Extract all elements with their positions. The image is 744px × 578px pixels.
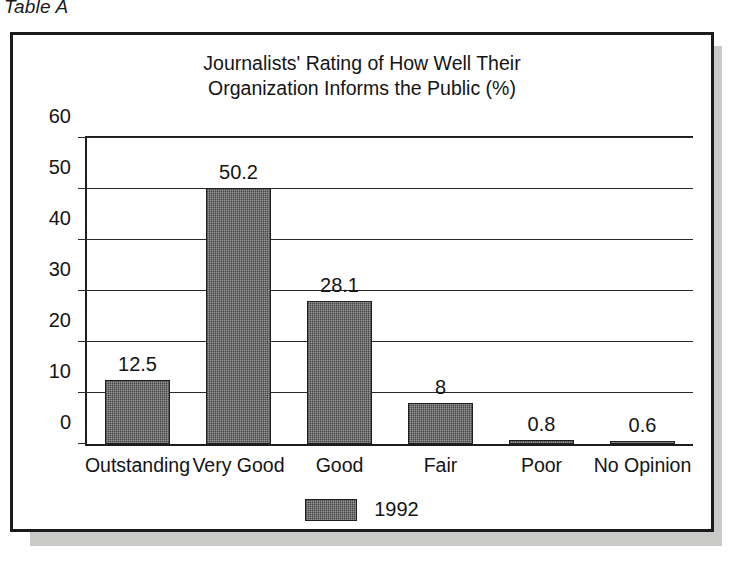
legend-label-1992: 1992 xyxy=(374,498,419,521)
chart-title-line-1: Journalists' Rating of How Well Their xyxy=(13,51,711,76)
bar-value-label: 0.8 xyxy=(528,413,556,436)
chart-legend: 1992 xyxy=(13,498,711,521)
bar-group[interactable]: 12.5Outstanding xyxy=(105,138,170,444)
y-tick-mark xyxy=(78,392,87,393)
category-label: No Opinion xyxy=(594,454,692,477)
bar-value-label: 0.6 xyxy=(629,414,657,437)
y-tick-mark xyxy=(78,290,87,291)
bar-group[interactable]: 8Fair xyxy=(408,138,473,444)
y-tick-label: 50 xyxy=(49,155,71,178)
legend-swatch-1992 xyxy=(305,499,357,521)
bar-group[interactable]: 50.2Very Good xyxy=(206,138,271,444)
bar[interactable] xyxy=(105,380,170,444)
y-tick-mark xyxy=(78,137,87,138)
bar[interactable] xyxy=(408,403,473,444)
y-tick-label: 60 xyxy=(49,104,71,127)
bar-group[interactable]: 0.6No Opinion xyxy=(610,138,675,444)
category-label: Very Good xyxy=(192,454,284,477)
bar[interactable] xyxy=(610,441,675,444)
chart-title: Journalists' Rating of How Well Their Or… xyxy=(13,51,711,101)
bar-group[interactable]: 0.8Poor xyxy=(509,138,574,444)
y-tick-mark xyxy=(78,239,87,240)
category-label: Good xyxy=(316,454,364,477)
y-tick-label: 30 xyxy=(49,257,71,280)
bar[interactable] xyxy=(206,188,271,444)
chart-title-line-2: Organization Informs the Public (%) xyxy=(13,76,711,101)
y-tick-label: 40 xyxy=(49,206,71,229)
bars-layer: 12.5Outstanding50.2Very Good28.1Good8Fai… xyxy=(87,138,693,444)
bar-value-label: 50.2 xyxy=(219,161,258,184)
plot-area: 0102030405060 12.5Outstanding50.2Very Go… xyxy=(85,136,693,446)
y-tick-mark xyxy=(78,443,87,444)
figure-caption: Table A xyxy=(4,0,68,18)
bar[interactable] xyxy=(307,301,372,444)
bar[interactable] xyxy=(509,440,574,444)
category-label: Poor xyxy=(521,454,562,477)
y-tick-label: 20 xyxy=(49,308,71,331)
bar-value-label: 28.1 xyxy=(320,274,359,297)
y-tick-mark xyxy=(78,188,87,189)
category-label: Outstanding xyxy=(85,454,190,477)
bar-value-label: 12.5 xyxy=(118,353,157,376)
y-tick-label: 0 xyxy=(60,410,71,433)
category-label: Fair xyxy=(424,454,458,477)
y-tick-label: 10 xyxy=(49,359,71,382)
bar-group[interactable]: 28.1Good xyxy=(307,138,372,444)
chart-frame: Journalists' Rating of How Well Their Or… xyxy=(10,32,714,532)
bar-value-label: 8 xyxy=(435,376,446,399)
y-tick-mark xyxy=(78,341,87,342)
